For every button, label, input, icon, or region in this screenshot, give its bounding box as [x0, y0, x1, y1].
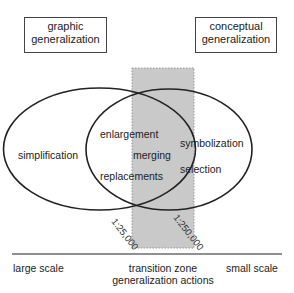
generalization-actions-label: generalization actions	[103, 274, 223, 286]
merging-label: merging	[133, 149, 171, 161]
enlargement-label: enlargement	[100, 128, 158, 140]
large-scale-label: large scale	[13, 262, 64, 274]
graphic-generalization-box: graphic generalization	[24, 17, 107, 53]
selection-label: selection	[180, 163, 221, 175]
small-scale-label: small scale	[226, 262, 278, 274]
simplification-label: simplification	[18, 149, 78, 161]
symbolization-label: symbolization	[180, 137, 244, 149]
replacements-label: replacements	[100, 170, 163, 182]
conceptual-generalization-box: conceptual generalization	[195, 17, 277, 53]
transition-zone-label: transition zone	[108, 262, 218, 274]
